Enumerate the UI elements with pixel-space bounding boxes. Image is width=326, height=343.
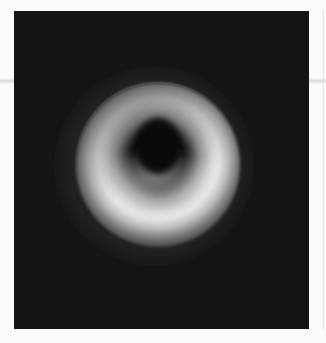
page-edge-line xyxy=(323,10,324,330)
image-frame xyxy=(14,11,309,329)
central-shadow xyxy=(136,118,180,174)
